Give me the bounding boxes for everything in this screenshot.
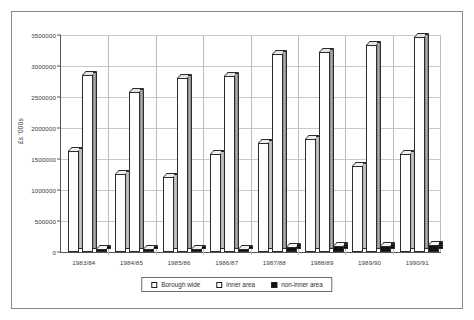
bar-side [174, 174, 178, 249]
bar-side [425, 34, 429, 249]
bar-side [126, 171, 130, 249]
bar-side [107, 246, 111, 249]
bar-face [380, 246, 391, 252]
bar-side [249, 246, 253, 249]
bar-non-inner-area[interactable] [333, 246, 344, 252]
y-tick-label: 3500000 [31, 32, 56, 39]
legend-item[interactable]: Borough wide [151, 281, 200, 288]
bar-face [352, 166, 363, 252]
y-tick-label: 1000000 [31, 187, 56, 194]
bar-face [96, 249, 107, 252]
bar-side [269, 140, 273, 249]
bar-group [157, 35, 204, 252]
bar-borough-wide[interactable] [115, 174, 126, 252]
bar-inner-area[interactable] [414, 37, 425, 252]
x-tick-label: 1988/89 [298, 253, 346, 269]
bar-borough-wide[interactable] [210, 154, 221, 252]
legend-item[interactable]: non-inner area [271, 281, 323, 288]
bar-face [129, 92, 140, 252]
bar-non-inner-area[interactable] [96, 249, 107, 252]
bar-non-inner-area[interactable] [191, 249, 202, 252]
bar-non-inner-area[interactable] [143, 249, 154, 252]
y-tick-mark [57, 221, 61, 222]
x-axis-labels: 1983/841984/851985/861986/871987/881988/… [60, 253, 441, 269]
bar-group [204, 35, 251, 252]
x-tick-label: 1984/85 [108, 253, 156, 269]
bar-side [439, 242, 443, 249]
x-tick-label: 1983/84 [60, 253, 108, 269]
bar-inner-area[interactable] [272, 54, 283, 252]
bar-side [140, 89, 144, 249]
bar-inner-area[interactable] [319, 52, 330, 252]
bar-side [377, 42, 381, 249]
y-axis-title: £s '000s [17, 118, 24, 144]
x-tick-label: 1989/90 [346, 253, 394, 269]
legend-item[interactable]: inner area [216, 281, 255, 288]
bar-non-inner-area[interactable] [380, 246, 391, 252]
bar-group [346, 35, 393, 252]
bar-side [221, 151, 225, 249]
bar-group [109, 35, 156, 252]
bar-inner-area[interactable] [177, 78, 188, 252]
bar-side [330, 49, 334, 249]
bar-inner-area[interactable] [366, 45, 377, 252]
bar-non-inner-area[interactable] [428, 245, 439, 252]
bar-borough-wide[interactable] [305, 139, 316, 252]
bar-side [297, 244, 301, 249]
y-tick-label: 1500000 [31, 156, 56, 163]
bar-group [299, 35, 346, 252]
y-tick-mark [57, 159, 61, 160]
bar-face [366, 45, 377, 252]
bar-side [283, 51, 287, 249]
bar-side [344, 243, 348, 249]
bar-side [235, 73, 239, 249]
bar-face [191, 249, 202, 252]
bar-face [319, 52, 330, 252]
bar-face [115, 174, 126, 252]
bar-borough-wide[interactable] [68, 151, 79, 252]
bar-face [400, 154, 411, 252]
y-tick-label: 3000000 [31, 63, 56, 70]
bar-inner-area[interactable] [224, 76, 235, 252]
y-tick-mark [57, 66, 61, 67]
y-tick-label: 2000000 [31, 125, 56, 132]
bar-borough-wide[interactable] [258, 143, 269, 252]
y-tick-label: 500000 [35, 218, 56, 225]
x-tick-label: 1987/88 [251, 253, 299, 269]
legend-swatch-icon [271, 282, 277, 288]
bar-face [210, 154, 221, 252]
bar-inner-area[interactable] [82, 75, 93, 252]
x-tick-label: 1985/86 [155, 253, 203, 269]
y-tick-mark [57, 35, 61, 36]
bar-face [305, 139, 316, 252]
bar-face [272, 54, 283, 252]
bar-face [177, 78, 188, 252]
chart-legend: Borough wideinner areanon-inner area [141, 277, 332, 292]
bar-side [93, 72, 97, 249]
bar-face [286, 247, 297, 252]
bar-side [411, 151, 415, 249]
bar-inner-area[interactable] [129, 92, 140, 252]
x-tick-label: 1990/91 [393, 253, 441, 269]
bar-borough-wide[interactable] [163, 177, 174, 252]
bar-side [391, 243, 395, 249]
bar-groups [62, 35, 441, 252]
bar-side [202, 246, 206, 249]
legend-label: inner area [226, 281, 255, 288]
bar-non-inner-area[interactable] [238, 249, 249, 252]
bar-group [252, 35, 299, 252]
bar-borough-wide[interactable] [352, 166, 363, 252]
bar-face [428, 245, 439, 252]
legend-label: Borough wide [161, 281, 200, 288]
bar-side [316, 136, 320, 249]
plot-area: 0500000100000015000002000000250000030000… [60, 35, 441, 253]
bar-side [79, 148, 83, 249]
bar-side [154, 246, 158, 249]
bar-non-inner-area[interactable] [286, 247, 297, 252]
y-tick-mark [57, 97, 61, 98]
bar-borough-wide[interactable] [400, 154, 411, 252]
y-tick-label: 2500000 [31, 94, 56, 101]
legend-label: non-inner area [281, 281, 323, 288]
bar-face [258, 143, 269, 252]
bar-group [62, 35, 109, 252]
